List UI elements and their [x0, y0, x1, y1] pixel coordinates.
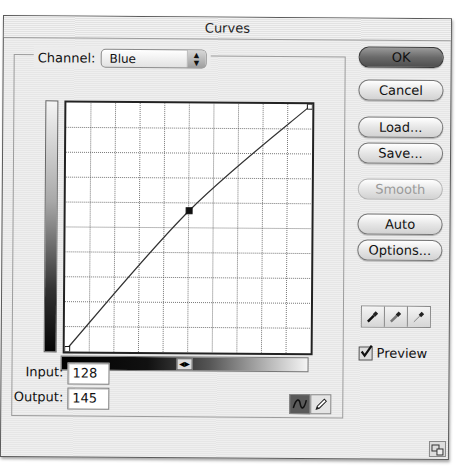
curve-tool-icon	[292, 398, 307, 410]
resize-toggle-button[interactable]	[429, 441, 446, 457]
input-field[interactable]: 128	[67, 362, 109, 384]
curve-control-point[interactable]	[186, 208, 192, 214]
curve-tool-button[interactable]	[289, 394, 310, 414]
channel-row: Channel: Blue ▲▼	[34, 46, 211, 69]
smooth-button[interactable]: Smooth	[358, 178, 443, 200]
channel-select[interactable]: Blue ▲▼	[100, 48, 206, 68]
load-button[interactable]: Load...	[358, 116, 443, 138]
save-button[interactable]: Save...	[358, 142, 443, 164]
pencil-icon	[314, 397, 328, 411]
eyedropper-group	[361, 306, 431, 328]
white-point-eyedropper[interactable]	[407, 307, 430, 327]
output-field[interactable]: 145	[67, 387, 109, 409]
pencil-tool-button[interactable]	[310, 394, 331, 414]
input-label: Input:	[3, 364, 63, 379]
channel-label: Channel:	[38, 50, 96, 65]
output-label: Output:	[3, 389, 63, 404]
preview-checkbox[interactable]	[359, 346, 373, 360]
preview-label: Preview	[377, 346, 428, 361]
curve-control-point[interactable]	[65, 346, 70, 351]
ok-button[interactable]: OK	[359, 46, 444, 68]
title-bar[interactable]: Curves	[4, 16, 451, 41]
window-title: Curves	[205, 20, 250, 35]
gray-point-eyedropper[interactable]	[384, 307, 407, 327]
black-point-eyedropper[interactable]	[362, 307, 384, 327]
auto-button[interactable]: Auto	[357, 213, 442, 235]
curve-tool-group	[289, 394, 331, 414]
cancel-button[interactable]: Cancel	[358, 79, 443, 101]
output-gradient-bar	[44, 100, 59, 352]
checkmark-icon	[360, 344, 374, 358]
resize-icon	[430, 443, 445, 457]
select-arrows-icon: ▲▼	[186, 50, 205, 68]
preview-checkbox-row[interactable]: Preview	[359, 345, 428, 360]
options-button[interactable]: Options...	[357, 239, 442, 261]
channel-value: Blue	[109, 51, 136, 65]
eyedropper-gray-icon	[389, 310, 403, 324]
eyedropper-black-icon	[366, 310, 380, 324]
curve-graph[interactable]	[63, 100, 315, 355]
curve-control-point[interactable]	[307, 104, 312, 109]
eyedropper-white-icon	[412, 310, 426, 324]
curves-dialog: Curves Channel: Blue ▲▼ ◀▶ Input: 128 Ou…	[0, 15, 452, 460]
curve-canvas[interactable]	[65, 102, 313, 353]
gradient-direction-toggle-icon[interactable]: ◀▶	[177, 358, 193, 370]
